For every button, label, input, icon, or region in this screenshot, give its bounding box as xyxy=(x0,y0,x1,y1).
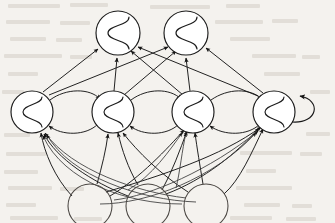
input-layer-nodes xyxy=(68,184,228,223)
edge-h1-o1 xyxy=(43,49,98,92)
network-graph xyxy=(0,0,335,223)
edge-i3-h1 xyxy=(45,133,186,198)
hidden-lateral-edge-group xyxy=(49,91,262,133)
output-layer-nodes xyxy=(96,11,208,55)
node-hidden-3 xyxy=(172,91,214,133)
edge-h3-h2 xyxy=(130,124,179,133)
hidden-to-output-edge-group xyxy=(43,47,263,96)
edge-h1-o2 xyxy=(49,47,168,95)
edge-i1-h1 xyxy=(41,133,72,196)
edge-h3-o1 xyxy=(131,51,183,95)
node-hidden-1 xyxy=(11,91,53,133)
node-hidden-4 xyxy=(253,91,295,133)
edge-h3-o2 xyxy=(186,58,190,91)
edge-h1-h2 xyxy=(50,91,100,100)
edge-i2-h2 xyxy=(118,133,138,185)
figure-canvas xyxy=(0,0,335,223)
edge-h2-o1 xyxy=(114,58,117,91)
edge-h3-h4 xyxy=(211,91,262,100)
edge-i2-h1 xyxy=(44,134,128,196)
node-hidden-2 xyxy=(92,91,134,133)
node-output-2 xyxy=(164,11,208,55)
edge-i1-h3 xyxy=(110,130,184,196)
edge-bundle-h3-b xyxy=(176,133,186,188)
edge-i3-h2 xyxy=(123,133,188,192)
edge-h4-h3 xyxy=(210,124,260,133)
input-to-hidden-edge-group xyxy=(41,127,263,204)
edge-h2-h1 xyxy=(49,124,98,133)
node-output-1 xyxy=(96,11,140,55)
edge-h2-h3 xyxy=(131,91,181,100)
edge-h2-o2 xyxy=(124,51,176,95)
edge-h4-o1 xyxy=(138,47,258,96)
node-input-3 xyxy=(184,184,228,223)
